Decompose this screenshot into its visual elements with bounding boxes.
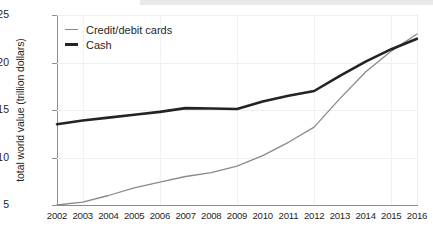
chart-legend: Credit/debit cards Cash [62,22,232,52]
series-line-credit-debit-cards [57,34,417,205]
y-tick-label: 5 [0,199,9,210]
legend-item-credit-debit-cards[interactable]: Credit/debit cards [62,22,232,37]
y-tick-label: 20 [0,57,9,68]
y-tick-label: 15 [0,104,9,115]
legend-swatch-credit-debit-cards-icon [62,29,81,30]
y-tick-label: 10 [0,152,9,163]
legend-label-credit-debit-cards: Credit/debit cards [81,24,172,36]
chart-container: total world value (trillion dollars) 510… [0,0,433,234]
y-tick-label: 25 [0,9,9,20]
legend-label-cash: Cash [81,39,112,51]
legend-item-cash[interactable]: Cash [62,37,232,52]
x-tick-label: 2016 [400,209,433,223]
legend-swatch-cash-icon [62,43,81,46]
scan-artifact-strip [140,0,433,5]
y-axis-title: total world value (trillion dollars) [14,10,26,210]
plot-border-right [417,15,418,206]
y-tick-mark [52,205,57,206]
x-axis-line [57,205,418,206]
x-axis-tick-labels: 2002200320042005200620072008200920102011… [57,209,418,225]
